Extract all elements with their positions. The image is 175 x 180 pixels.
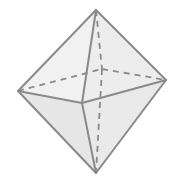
octahedron-figure: [0, 0, 175, 180]
octahedron-diagram: [0, 0, 175, 180]
